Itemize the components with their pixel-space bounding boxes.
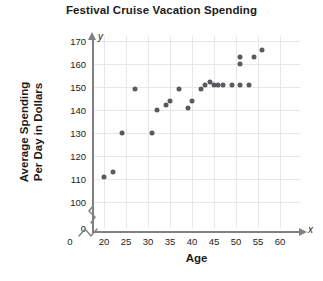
x-tick-label: 60	[270, 236, 290, 247]
y-axis-title-line-2: Per Day in Dollars	[31, 37, 45, 227]
data-point	[185, 105, 190, 110]
data-point	[150, 131, 155, 136]
data-point	[102, 174, 107, 179]
y-tick-label: 120	[60, 151, 86, 162]
y-tick-label: 100	[60, 197, 86, 208]
data-point	[110, 170, 115, 175]
gridline-horizontal	[93, 156, 300, 157]
gridline-horizontal	[93, 202, 300, 203]
data-point	[251, 55, 256, 60]
data-point	[190, 98, 195, 103]
x-axis-letter: x	[308, 224, 313, 235]
y-axis-line	[92, 40, 94, 232]
data-point	[154, 108, 159, 113]
y-tick-label: 140	[60, 105, 86, 116]
y-tick-label: 150	[60, 82, 86, 93]
data-point	[238, 62, 243, 67]
data-point	[229, 82, 234, 87]
data-point	[168, 98, 173, 103]
y-axis-break-icon	[86, 205, 100, 225]
data-point	[260, 48, 265, 53]
data-point	[247, 82, 252, 87]
x-tick-label: 50	[226, 236, 246, 247]
y-tick-label: 110	[60, 174, 86, 185]
x-tick-label: 30	[138, 236, 158, 247]
data-point	[198, 87, 203, 92]
y-axis-title: Average Spending Per Day in Dollars	[17, 37, 45, 227]
y-axis-title-line-1: Average Spending	[17, 37, 31, 227]
gridline-horizontal	[93, 64, 300, 65]
x-axis-line	[92, 231, 300, 233]
y-tick-label: 160	[60, 59, 86, 70]
x-tick-label: 35	[160, 236, 180, 247]
x-tick-label: 40	[182, 236, 202, 247]
data-point	[163, 103, 168, 108]
gridline-horizontal	[93, 87, 300, 88]
gridline-horizontal	[93, 110, 300, 111]
scatter-chart: Festival Cruise Vacation Spending y x 01…	[0, 0, 323, 281]
data-point	[238, 82, 243, 87]
data-point	[220, 82, 225, 87]
data-point	[119, 131, 124, 136]
data-point	[176, 87, 181, 92]
y-tick-label: 130	[60, 128, 86, 139]
y-axis-arrow-icon	[88, 32, 96, 40]
x-tick-label: 55	[248, 236, 268, 247]
data-point	[132, 87, 137, 92]
y-tick-label: 170	[60, 36, 86, 47]
y-axis-letter: y	[98, 31, 103, 42]
x-axis-break-icon	[76, 225, 102, 239]
x-tick-label: 25	[116, 236, 136, 247]
x-axis-title: Age	[93, 252, 300, 264]
x-axis-arrow-icon	[299, 228, 307, 236]
x-tick-label: 45	[204, 236, 224, 247]
chart-title: Festival Cruise Vacation Spending	[0, 4, 323, 16]
gridline-horizontal	[93, 179, 300, 180]
gridline-horizontal	[93, 41, 300, 42]
data-point	[238, 55, 243, 60]
plot-area	[93, 36, 300, 228]
